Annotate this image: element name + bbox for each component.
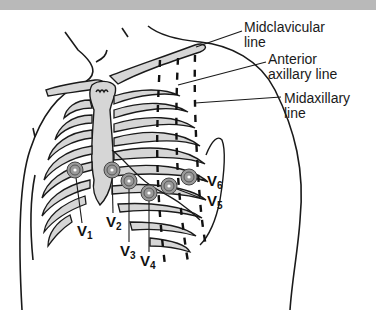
electrode-v1 (67, 162, 83, 178)
electrode-label-v4: V4 (140, 252, 156, 271)
label-midclavicular-line: Midclavicular line (244, 20, 325, 50)
label-line2: line (284, 106, 350, 121)
electrode-v6 (181, 169, 197, 185)
label-line2: line (244, 35, 325, 50)
electrode-v2 (104, 162, 120, 178)
label-line1: Midclavicular (244, 20, 325, 35)
label-line1: Midaxillary (284, 91, 350, 106)
label-midaxillary-line: Midaxillary line (284, 91, 350, 121)
electrode-v5 (161, 178, 177, 194)
electrode-label-v5: V5 (207, 192, 223, 211)
clavicles (46, 44, 205, 96)
electrode-label-v6: V6 (207, 172, 223, 191)
electrode-label-v2: V2 (106, 213, 122, 232)
electrode-v4 (141, 185, 157, 201)
midaxillary-dashed-line (195, 55, 206, 248)
electrode-label-v3: V3 (120, 242, 136, 261)
electrode-v3 (121, 173, 137, 189)
label-line1: Anterior (268, 52, 337, 67)
label-anterior-axillary-line: Anterior axillary line (268, 52, 337, 82)
label-line2: axillary line (268, 67, 337, 82)
electrode-label-v1: V1 (77, 222, 93, 241)
